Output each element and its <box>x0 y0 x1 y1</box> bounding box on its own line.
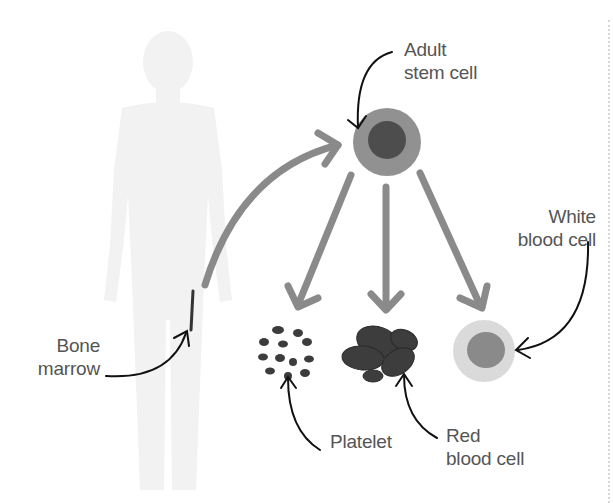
label-line: blood cell <box>446 447 524 470</box>
pointer-white <box>516 242 588 358</box>
label-platelet: Platelet <box>330 430 392 453</box>
adult-stem-cell <box>353 108 421 176</box>
label-line: marrow <box>20 357 100 380</box>
label-white-blood-cell: White blood cell <box>478 205 596 251</box>
red-blood-cells <box>341 320 421 382</box>
label-line: Platelet <box>330 430 392 453</box>
label-line: Bone <box>20 334 100 357</box>
white-blood-cell <box>453 320 515 382</box>
label-red-blood-cell: Red blood cell <box>446 424 524 470</box>
page-edge-divider <box>608 20 610 503</box>
label-line: Red <box>446 424 524 447</box>
pointer-platelet <box>281 377 320 450</box>
stem-cell-diagram: Adult stem cell White blood cell Bone ma… <box>0 0 613 503</box>
bone-marrow-mark <box>191 291 193 330</box>
arrow-stem-to-platelet <box>288 175 351 307</box>
label-line: Adult <box>404 38 477 61</box>
label-bone-marrow: Bone marrow <box>20 334 100 380</box>
arrow-stem-to-red <box>371 187 401 310</box>
pointer-red <box>396 374 437 438</box>
label-adult-stem-cell: Adult stem cell <box>404 38 477 84</box>
label-line: White <box>478 205 596 228</box>
arrow-stem-to-white <box>420 173 487 308</box>
platelets <box>258 326 314 380</box>
label-line: blood cell <box>478 228 596 251</box>
label-line: stem cell <box>404 61 477 84</box>
